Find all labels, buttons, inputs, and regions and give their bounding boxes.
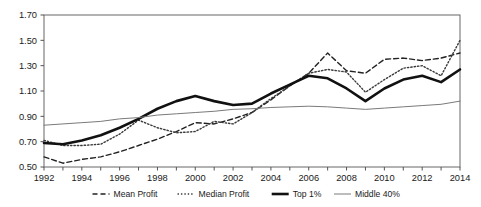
plot-frame <box>44 15 460 167</box>
x-tick-label: 1994 <box>71 173 92 183</box>
y-tick-label: 0.70 <box>19 137 37 147</box>
x-tick-label: 1998 <box>147 173 168 183</box>
legend-label: Median Profit <box>199 189 250 199</box>
plot-area-border <box>44 15 460 167</box>
legend-label: Mean Profit <box>114 189 159 199</box>
legend-label: Top 1% <box>293 189 322 199</box>
x-tick-label: 2012 <box>412 173 433 183</box>
y-tick-label: 1.70 <box>19 10 37 20</box>
x-axis-tick-labels: 1992199419961998200020022004200620082010… <box>34 173 471 183</box>
x-tick-label: 2010 <box>374 173 395 183</box>
x-tick-label: 2004 <box>261 173 282 183</box>
y-tick-label: 1.30 <box>19 61 37 71</box>
y-tick-label: 0.50 <box>19 162 37 172</box>
y-tick-label: 0.90 <box>19 112 37 122</box>
x-tick-label: 1992 <box>34 173 55 183</box>
x-tick-label: 2006 <box>298 173 319 183</box>
x-tick-label: 2002 <box>223 173 244 183</box>
x-tick-label: 2014 <box>450 173 471 183</box>
legend-label: Middle 40% <box>355 189 400 199</box>
chart-legend: Mean ProfitMedian ProfitTop 1%Middle 40% <box>93 189 401 199</box>
y-axis-ticks <box>41 15 45 167</box>
x-tick-label: 2000 <box>185 173 206 183</box>
y-tick-label: 1.10 <box>19 86 37 96</box>
x-axis-ticks <box>44 167 460 171</box>
x-tick-label: 2008 <box>336 173 357 183</box>
x-tick-label: 1996 <box>109 173 130 183</box>
profit-trend-chart: 0.500.700.901.101.301.501.70 19921994199… <box>0 0 481 207</box>
y-tick-label: 1.50 <box>19 36 37 46</box>
y-axis-tick-labels: 0.500.700.901.101.301.501.70 <box>19 10 37 172</box>
chart-canvas: 0.500.700.901.101.301.501.70 19921994199… <box>0 0 481 207</box>
